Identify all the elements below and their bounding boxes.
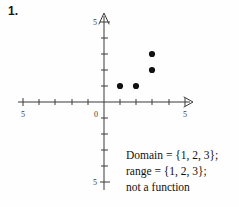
x-axis-tick-label-negative-5: 5 — [21, 110, 25, 119]
answer-conclusion-line: not a function — [126, 179, 238, 195]
data-point — [133, 83, 139, 89]
data-point — [149, 51, 155, 57]
origin-label: 0 — [94, 110, 98, 119]
data-point — [149, 67, 155, 73]
y-axis-tick-label-negative-5: 5 — [93, 178, 97, 187]
data-point — [117, 83, 123, 89]
x-axis-tick-label-positive-5: 5 — [183, 110, 187, 119]
figure-page: 1. — [0, 0, 239, 207]
y-axis-tick-label-positive-5: 5 — [93, 18, 97, 27]
answer-domain-line: Domain = {1, 2, 3}; — [126, 147, 238, 163]
answer-range-line: range = {1, 2, 3}; — [126, 163, 238, 179]
answer-text-block: Domain = {1, 2, 3}; range = {1, 2, 3}; n… — [126, 147, 238, 195]
